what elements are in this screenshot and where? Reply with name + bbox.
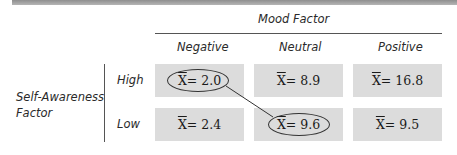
connector-line [0, 0, 457, 155]
